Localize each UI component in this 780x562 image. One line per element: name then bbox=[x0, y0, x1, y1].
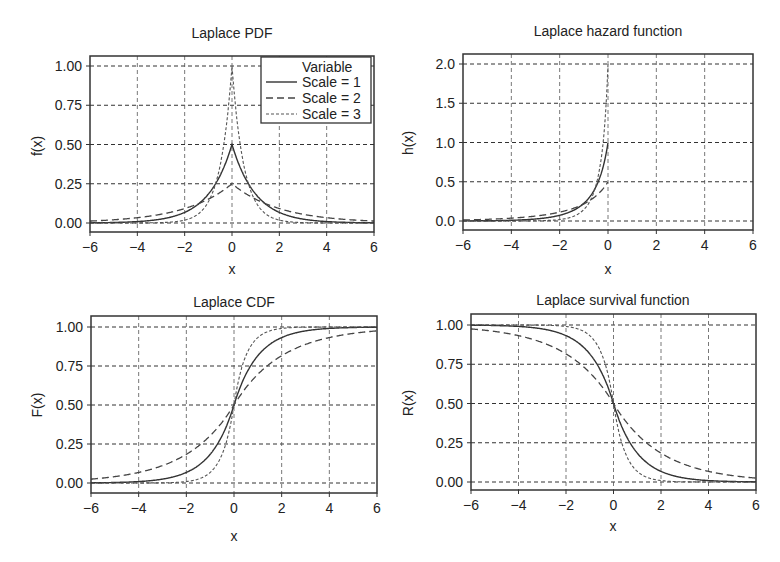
y-tick-label: 1.00 bbox=[56, 319, 83, 335]
x-tick-label: −6 bbox=[82, 239, 98, 255]
x-tick-label: 2 bbox=[657, 497, 665, 513]
y-tick-label: 1.00 bbox=[436, 317, 463, 333]
panel-title: Laplace CDF bbox=[193, 294, 275, 310]
plot-area: 0.00.51.01.52.0−6−4−20246 bbox=[436, 54, 758, 253]
y-tick-label: 0.00 bbox=[55, 215, 82, 231]
x-axis-label: x bbox=[610, 518, 617, 534]
y-tick-label: 0.75 bbox=[56, 358, 83, 374]
y-tick-label: 1.00 bbox=[55, 58, 82, 74]
x-tick-label: 6 bbox=[752, 497, 760, 513]
x-tick-label: 4 bbox=[701, 237, 709, 253]
legend-entry: Scale = 3 bbox=[302, 106, 361, 122]
x-tick-label: −4 bbox=[503, 237, 519, 253]
y-tick-label: 0.75 bbox=[55, 97, 82, 113]
y-tick-label: 0.50 bbox=[436, 396, 463, 412]
x-axis-label: x bbox=[229, 261, 236, 277]
x-tick-label: −2 bbox=[558, 497, 574, 513]
y-tick-label: 1.5 bbox=[436, 95, 456, 111]
y-axis-label: f(x) bbox=[29, 136, 45, 156]
legend-entry: Scale = 1 bbox=[302, 74, 361, 90]
y-tick-label: 0.0 bbox=[436, 213, 456, 229]
x-tick-label: 4 bbox=[705, 497, 713, 513]
y-axis-label: F(x) bbox=[29, 393, 45, 418]
y-tick-label: 0.75 bbox=[436, 356, 463, 372]
y-tick-label: 2.0 bbox=[436, 56, 456, 72]
y-axis-label: h(x) bbox=[400, 131, 416, 155]
panel-title: Laplace survival function bbox=[536, 292, 689, 308]
x-tick-label: 2 bbox=[278, 500, 286, 516]
x-axis-label: x bbox=[605, 261, 612, 277]
y-tick-label: 0.5 bbox=[436, 174, 456, 190]
x-tick-label: 0 bbox=[610, 497, 618, 513]
plot-area: 0.000.250.500.751.00−6−4−20246 bbox=[56, 316, 381, 516]
x-tick-label: 0 bbox=[228, 239, 236, 255]
x-tick-label: −4 bbox=[511, 497, 527, 513]
x-tick-label: −2 bbox=[177, 239, 193, 255]
x-tick-label: −4 bbox=[129, 239, 145, 255]
x-tick-label: 6 bbox=[370, 239, 378, 255]
y-tick-label: 0.50 bbox=[55, 137, 82, 153]
plot-area: 0.000.250.500.751.00−6−4−20246 bbox=[436, 314, 760, 513]
x-tick-label: −2 bbox=[178, 500, 194, 516]
y-tick-label: 1.0 bbox=[436, 135, 456, 151]
y-tick-label: 0.50 bbox=[56, 397, 83, 413]
panel-title: Laplace PDF bbox=[192, 25, 273, 41]
x-tick-label: 0 bbox=[230, 500, 238, 516]
legend-entry: Scale = 2 bbox=[302, 90, 361, 106]
x-tick-label: −4 bbox=[131, 500, 147, 516]
y-tick-label: 0.00 bbox=[56, 475, 83, 491]
x-tick-label: −6 bbox=[83, 500, 99, 516]
x-tick-label: 4 bbox=[323, 239, 331, 255]
legend-title: Variable bbox=[302, 59, 353, 75]
x-axis-label: x bbox=[231, 528, 238, 544]
x-tick-label: 2 bbox=[652, 237, 660, 253]
x-tick-label: 6 bbox=[373, 500, 381, 516]
x-tick-label: −6 bbox=[455, 237, 471, 253]
x-tick-label: 6 bbox=[749, 237, 757, 253]
x-tick-label: 4 bbox=[325, 500, 333, 516]
laplace-figure: Laplace PDF f(x) x Laplace hazard functi… bbox=[0, 0, 780, 562]
y-tick-label: 0.25 bbox=[56, 436, 83, 452]
x-tick-label: −6 bbox=[463, 497, 479, 513]
y-tick-label: 0.25 bbox=[55, 176, 82, 192]
x-tick-label: −2 bbox=[552, 237, 568, 253]
x-tick-label: 2 bbox=[275, 239, 283, 255]
x-tick-label: 0 bbox=[604, 237, 612, 253]
y-axis-label: R(x) bbox=[400, 390, 416, 416]
panel-title: Laplace hazard function bbox=[534, 23, 683, 39]
legend: Variable Scale = 1 Scale = 2 Scale = 3 bbox=[261, 57, 371, 123]
y-tick-label: 0.25 bbox=[436, 435, 463, 451]
y-tick-label: 0.00 bbox=[436, 474, 463, 490]
